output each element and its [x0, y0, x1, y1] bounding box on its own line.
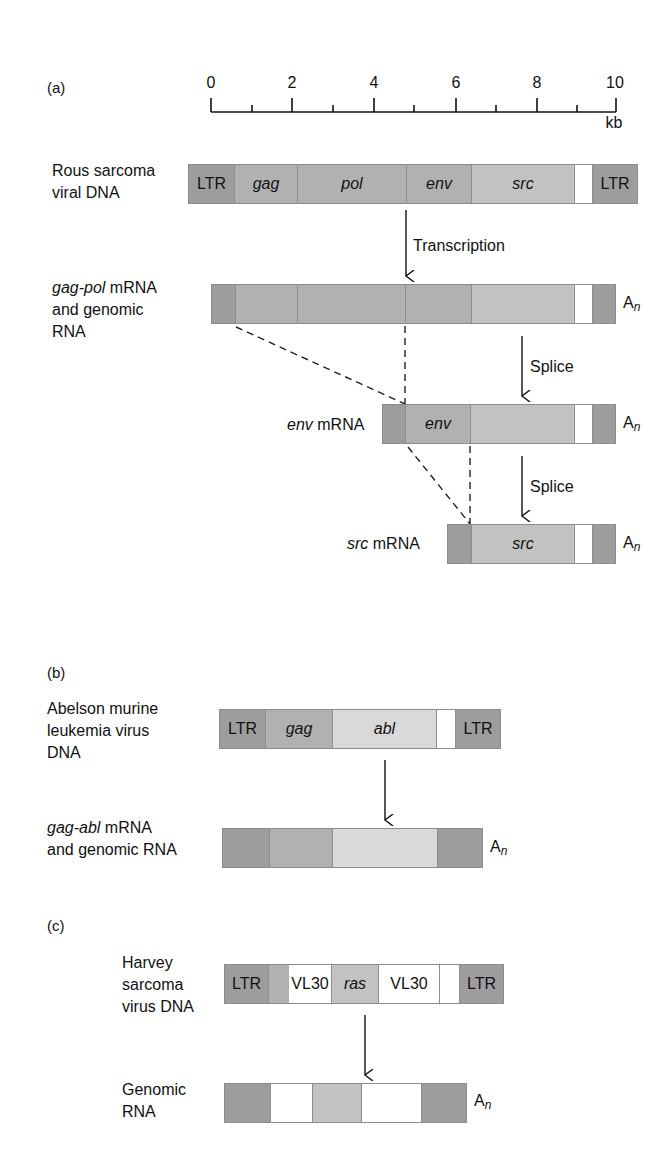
genomic-rna-label-line2: RNA — [122, 1101, 156, 1123]
segment-leader — [212, 285, 236, 323]
abelson-dna-label-line3: DNA — [47, 742, 81, 764]
panel-b-label: (b) — [47, 662, 65, 684]
gag-pol-mrna-label-line2: and genomic — [52, 299, 144, 321]
gag-abl-mrna-label-line1: gag-abl mRNA — [47, 817, 152, 839]
poly-a-tail-label: An — [623, 294, 640, 314]
poly-a-tail-label: An — [623, 534, 640, 554]
segment-src — [471, 405, 575, 443]
segment-abl: abl — [333, 710, 437, 748]
segment-vl30: VL30 — [289, 965, 332, 1003]
segment-leader — [448, 525, 472, 563]
segment-ltr: LTR — [456, 710, 500, 748]
gag-abl-mrna-label-line2: and genomic RNA — [47, 839, 177, 861]
segment-ltr: LTR — [225, 965, 269, 1003]
segment-ltr: LTR — [220, 710, 266, 748]
abelson-dna-label-line1: Abelson murine — [47, 698, 158, 720]
genomic-rna-bar — [224, 1083, 467, 1123]
src-mrna-bar: src — [447, 524, 616, 564]
env-mrna-label: env mRNA — [287, 414, 364, 436]
splice-label: Splice — [530, 356, 574, 378]
harvey-dna-label-line2: sarcoma — [122, 974, 183, 996]
segment-leader — [383, 405, 406, 443]
segment-ltr: LTR — [189, 165, 235, 203]
rsv-dna-label-line2: viral DNA — [52, 182, 120, 204]
segment-src: src — [472, 165, 575, 203]
segment-src: src — [472, 525, 575, 563]
segment-gag — [236, 285, 298, 323]
segment-src — [472, 285, 575, 323]
segment-noncoding — [575, 405, 593, 443]
gag-abl-mrna-bar — [222, 828, 483, 868]
abelson-dna-label-line2: leukemia virus — [47, 720, 149, 742]
rsv-dna-label-line1: Rous sarcoma — [52, 160, 155, 182]
rsv-dna-bar: LTR gag pol env src LTR — [188, 164, 638, 204]
segment-vl30 — [362, 1084, 422, 1122]
tick-label: 6 — [452, 74, 461, 92]
tick-label: 2 — [288, 74, 297, 92]
segment-noncoding — [575, 285, 593, 323]
abelson-dna-bar: LTR gag abl LTR — [219, 709, 501, 749]
tick-label: 8 — [533, 74, 542, 92]
kb-scale-axis — [211, 98, 616, 112]
segment-env: env — [406, 405, 471, 443]
segment-gag: gag — [235, 165, 298, 203]
poly-a-tail-label: An — [474, 1092, 491, 1112]
tick-label: 0 — [207, 74, 216, 92]
segment-ltr: LTR — [460, 965, 503, 1003]
segment-gag-remnant — [269, 965, 289, 1003]
segment-r-u5 — [438, 829, 482, 867]
segment-noncoding — [437, 710, 456, 748]
segment-pol — [298, 285, 406, 323]
transcription-label: Transcription — [413, 235, 505, 257]
segment-vl30: VL30 — [379, 965, 440, 1003]
panel-c-label: (c) — [47, 915, 65, 937]
segment-r-u5 — [593, 525, 615, 563]
poly-a-tail-label: An — [623, 414, 640, 434]
segment-env: env — [407, 165, 472, 203]
segment-leader — [225, 1084, 271, 1122]
scale-unit-label: kb — [606, 114, 623, 132]
segment-ras — [313, 1084, 362, 1122]
segment-r-u5 — [593, 405, 615, 443]
env-mrna-bar: env — [382, 404, 616, 444]
splice-label: Splice — [530, 476, 574, 498]
poly-a-tail-label: An — [490, 838, 507, 858]
tick-label: 10 — [606, 74, 624, 92]
segment-pol: pol — [298, 165, 407, 203]
gag-pol-mrna-label-line3: RNA — [52, 321, 86, 343]
gag-pol-mrna-label-line1: gag-pol mRNA — [52, 277, 157, 299]
segment-env — [406, 285, 472, 323]
tick-label: 4 — [370, 74, 379, 92]
harvey-dna-label-line1: Harvey — [122, 952, 173, 974]
harvey-dna-bar: LTR VL30 ras VL30 LTR — [224, 964, 504, 1004]
segment-gag — [270, 829, 333, 867]
panel-a-label: (a) — [47, 77, 65, 99]
segment-ltr: LTR — [593, 165, 637, 203]
segment-abl — [333, 829, 438, 867]
segment-vl30 — [271, 1084, 313, 1122]
src-mrna-label: src mRNA — [347, 533, 420, 555]
segment-gag: gag — [266, 710, 333, 748]
genomic-rna-label-line1: Genomic — [122, 1079, 186, 1101]
harvey-dna-label-line3: virus DNA — [122, 996, 194, 1018]
segment-noncoding — [440, 965, 460, 1003]
segment-ras: ras — [332, 965, 379, 1003]
segment-r-u5 — [593, 285, 615, 323]
segment-noncoding — [575, 525, 593, 563]
segment-r-u5 — [422, 1084, 466, 1122]
segment-leader — [223, 829, 270, 867]
segment-noncoding — [575, 165, 593, 203]
gag-pol-mrna-bar — [211, 284, 616, 324]
